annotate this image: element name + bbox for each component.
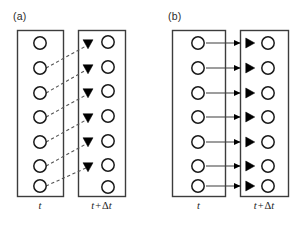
dashed-connector: [46, 70, 86, 93]
particle-circle: [102, 85, 114, 97]
diagram-svg: [0, 0, 307, 226]
dashed-connector: [46, 168, 86, 186]
particle-circle: [34, 136, 46, 148]
particle-circle: [262, 62, 274, 74]
particle-circle: [34, 87, 46, 99]
triangle-right-marker: [246, 161, 255, 171]
plus-sign: +: [94, 200, 102, 211]
particle-circle: [262, 160, 274, 172]
panel-a-right-time-label: t+Δt: [78, 200, 125, 211]
time-dt: t: [109, 200, 112, 211]
triangle-down-marker: [83, 163, 93, 172]
particle-circle: [192, 111, 204, 123]
particle-circle: [102, 181, 114, 193]
triangle-right-marker: [246, 181, 255, 191]
panel-a-left-time-label: t: [17, 200, 63, 211]
particle-circle: [262, 111, 274, 123]
particle-circle: [34, 62, 46, 74]
triangle-right-marker: [246, 137, 255, 147]
plus-sign: +: [257, 200, 265, 211]
triangle-right-marker: [246, 63, 255, 73]
particle-circle: [102, 159, 114, 171]
circles-layer: [34, 36, 274, 193]
triangle-right-marker: [246, 88, 255, 98]
triangle-right-marker: [246, 38, 255, 48]
dashed-connector: [46, 144, 86, 166]
delta-symbol: Δ: [102, 200, 109, 211]
particle-circle: [102, 110, 114, 122]
particle-circle: [262, 136, 274, 148]
time-dt: t: [271, 200, 274, 211]
particle-circle: [102, 135, 114, 147]
particle-circle: [262, 87, 274, 99]
dashed-connector: [46, 46, 86, 68]
particle-circle: [34, 180, 46, 192]
particle-circle: [262, 180, 274, 192]
panel-b-right-time-label: t+Δt: [240, 200, 288, 211]
particle-circle: [34, 160, 46, 172]
triangle-down-marker: [83, 65, 93, 74]
particle-circle: [192, 180, 204, 192]
particle-circle: [192, 62, 204, 74]
dashed-connector: [46, 95, 86, 117]
figure-canvas: (a) (b) t t+Δt t t+Δt: [0, 0, 307, 226]
panel-b-left-time-label: t: [172, 200, 225, 211]
particle-circle: [34, 111, 46, 123]
connectors-layer: [46, 43, 240, 186]
particle-circle: [192, 37, 204, 49]
particle-circle: [102, 61, 114, 73]
particle-circle: [262, 37, 274, 49]
particle-circle: [34, 37, 46, 49]
triangle-right-marker: [246, 112, 255, 122]
particle-circle: [192, 136, 204, 148]
particle-circle: [192, 87, 204, 99]
dashed-connector: [46, 120, 86, 142]
particle-circle: [102, 36, 114, 48]
particle-circle: [192, 160, 204, 172]
